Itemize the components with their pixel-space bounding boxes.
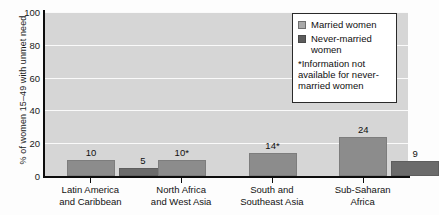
gridline	[45, 110, 408, 111]
bar-married	[249, 153, 297, 176]
legend-item-label-line: women	[311, 44, 372, 55]
y-tick-label: 0	[14, 171, 40, 182]
legend-footnote-line: married women	[298, 80, 391, 91]
category-label-line: Africa	[304, 196, 422, 208]
y-tick-label: 60	[14, 72, 40, 83]
bar-value-label: 24	[358, 124, 369, 135]
legend-items: Married womenNever-marriedwomen	[298, 19, 391, 55]
legend-footnote-line: *Information not	[298, 58, 391, 69]
bar-value-label: 9	[413, 148, 418, 159]
y-axis-title: % of women 15–49 with unmet need	[18, 0, 28, 180]
legend-item-label: Married women	[311, 19, 376, 30]
legend-swatch-never	[298, 35, 306, 43]
legend: Married womenNever-marriedwomen *Informa…	[292, 13, 397, 103]
bar-value-label: 10	[86, 147, 97, 158]
legend-item[interactable]: Never-marriedwomen	[298, 33, 391, 55]
legend-item-label-line: Never-married	[311, 33, 372, 44]
bar-married	[67, 160, 115, 176]
category-label-line: Sub-Saharan	[304, 184, 422, 196]
x-tick	[272, 178, 273, 183]
y-tick-label: 40	[14, 105, 40, 116]
x-tick	[181, 178, 182, 183]
x-tick	[90, 178, 91, 183]
legend-footnote: *Information notavailable for never-marr…	[298, 58, 391, 91]
legend-item-label-line: Married women	[311, 19, 376, 30]
bar-never-married	[391, 161, 439, 176]
category-label: Sub-SaharanAfrica	[304, 184, 422, 208]
legend-item[interactable]: Married women	[298, 19, 391, 30]
bar-value-label: 10*	[175, 147, 189, 158]
x-tick	[363, 178, 364, 183]
bar-married	[158, 160, 206, 176]
y-tick-label: 80	[14, 39, 40, 50]
y-tick-label: 100	[14, 7, 40, 18]
x-axis-line	[43, 176, 410, 178]
bar-value-label: 5	[140, 155, 145, 166]
legend-item-label: Never-marriedwomen	[311, 33, 372, 55]
y-tick-label: 20	[14, 138, 40, 149]
bar-value-label: 14*	[265, 140, 279, 151]
bar-married	[339, 137, 387, 176]
legend-swatch-married	[298, 21, 306, 29]
legend-footnote-line: available for never-	[298, 69, 391, 80]
